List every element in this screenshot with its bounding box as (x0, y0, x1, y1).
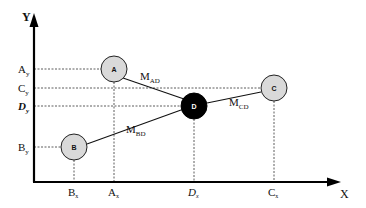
node-c: C (261, 75, 287, 101)
node-c-label: C (271, 85, 276, 92)
node-a: A (101, 56, 127, 82)
edge-label-ad: MAD (140, 70, 160, 85)
tick-a-y: Ay (18, 63, 30, 78)
node-a-label: A (111, 66, 116, 73)
tick-d-x: Dx (187, 186, 199, 199)
guide-lines (34, 69, 274, 182)
tick-c-x: Cx (268, 186, 278, 199)
node-b-label: B (71, 144, 76, 151)
node-b: B (61, 134, 87, 160)
tick-b-y: By (18, 141, 29, 156)
tick-d-y: Dy (17, 100, 30, 115)
x-axis-label: X (340, 187, 349, 201)
edge-label-bd: MBD (126, 123, 146, 138)
node-d-label: D (191, 103, 196, 110)
y-axis-label: Y (22, 10, 31, 24)
node-d: D (181, 93, 207, 119)
edge-label-cd: MCD (229, 96, 249, 111)
x-axis-arrow-icon (327, 178, 341, 187)
network-diagram: Y X Ay Cy Dy By Bx Ax Dx Cx MAD MBD MCD … (0, 0, 366, 208)
tick-a-x: Ax (108, 186, 119, 199)
y-axis-arrow-icon (30, 13, 39, 27)
tick-c-y: Cy (18, 82, 29, 97)
tick-b-x: Bx (68, 186, 78, 199)
x-tick-labels: Bx Ax Dx Cx (68, 186, 278, 199)
y-tick-labels: Ay Cy Dy By (17, 63, 30, 156)
